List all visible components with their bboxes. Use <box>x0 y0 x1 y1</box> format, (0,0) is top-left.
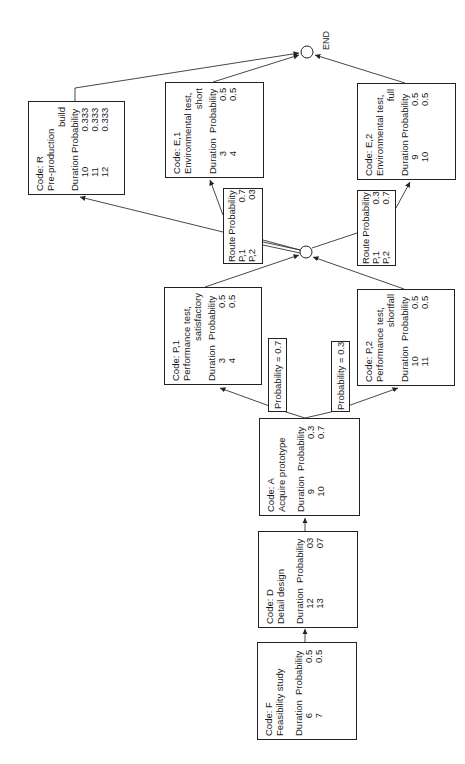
activity-node-F[interactable]: Code: F Feasibility study DurationProbab… <box>257 642 357 740</box>
node-title-2: shortfall <box>385 294 396 382</box>
node-title-2: short <box>193 88 204 174</box>
node-title: Environmental test, <box>374 89 385 176</box>
duration-table: DurationProbability 30.5 40.5 <box>207 291 237 381</box>
activity-node-A[interactable]: Code: A Acquire prototype DurationProbab… <box>259 418 360 516</box>
node-title: Environmental test, <box>182 88 193 174</box>
edge-merge-E1 <box>263 240 300 250</box>
duration-table: DurationProbability 100.5 110.5 <box>400 292 430 382</box>
duration-table: DurationProbability 90.5 100.5 <box>400 89 430 176</box>
route-table-to-E2: RouteProbability P,10.3 P,20.7 <box>357 190 396 266</box>
node-title: Acquire prototype <box>276 424 287 512</box>
node-title-2: full <box>385 89 396 176</box>
activity-node-P1[interactable]: Code: P,1 Performance test, satisfactory… <box>164 287 262 385</box>
node-title: Performance test, <box>181 293 192 381</box>
edge-A-P1 <box>220 388 305 418</box>
node-title-2: build <box>56 107 67 191</box>
duration-table: DurationProbability 90.3 100.7 <box>296 422 326 512</box>
node-code: Code: A <box>265 424 276 512</box>
node-title: Performance test, <box>374 294 385 382</box>
node-code: Code: P,2 <box>363 294 374 382</box>
node-code: Code: F <box>263 648 274 736</box>
activity-node-P2[interactable]: Code: P,2 Performance test, shortfall Du… <box>357 289 455 386</box>
merge-node-icon <box>300 246 312 258</box>
node-code: Code: E,1 <box>171 88 182 174</box>
duration-table: DurationProbability 100.333 110.333 120.… <box>70 104 110 191</box>
node-code: Code: R <box>34 107 45 191</box>
node-title: Detail design <box>275 536 286 624</box>
route-table-to-E1: RouteProbability P,10.7 P,203 <box>223 188 263 264</box>
edge-E1-END <box>213 55 299 82</box>
edge-A-P2 <box>305 388 398 418</box>
node-code: Code: E,2 <box>363 89 374 176</box>
edge-route-E1 <box>210 180 223 215</box>
activity-node-D[interactable]: Code: D Detail design DurationProbabilit… <box>258 531 358 628</box>
end-label: END <box>321 31 331 50</box>
node-code: Code: D <box>264 536 275 624</box>
duration-table: DurationProbability 1203 1307 <box>295 534 325 624</box>
edge-merge-R <box>80 197 300 250</box>
duration-table: DurationProbability 60.5 70.5 <box>294 646 324 736</box>
duration-table: DurationProbability 30.5 40.5 <box>208 84 238 174</box>
edge-route-E2 <box>396 182 410 208</box>
node-code: Code: P,1 <box>170 293 181 381</box>
node-title-2: satisfactory <box>192 293 203 381</box>
activity-node-R[interactable]: Code: R Pre-production build DurationPro… <box>28 101 125 195</box>
end-node-icon <box>301 46 313 58</box>
edge-E2-END <box>315 55 405 83</box>
activity-node-E2[interactable]: Code: E,2 Environmental test, full Durat… <box>357 83 456 180</box>
node-title: Pre-production <box>45 107 56 191</box>
edge-merge-E2 <box>312 233 357 248</box>
node-title: Feasibility study <box>274 648 285 736</box>
branch-label-to-P2: Probability = 0.3 <box>331 341 350 412</box>
branch-label-to-P1: Probability = 0.7 <box>268 338 287 412</box>
activity-node-E1[interactable]: Code: E,1 Environmental test, short Dura… <box>165 82 264 178</box>
